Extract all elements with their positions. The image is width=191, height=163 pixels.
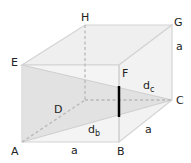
label-F: F [122, 67, 128, 80]
label-edge-gc: a [176, 40, 183, 53]
label-B: B [117, 145, 125, 158]
label-A: A [11, 145, 19, 158]
label-H: H [81, 11, 89, 24]
label-E: E [11, 56, 18, 69]
label-D: D [54, 103, 62, 116]
label-edge-ab: a [71, 144, 78, 157]
label-edge-bc: a [145, 123, 152, 136]
cube-diagram: H G E F C D A B a a a dc db [0, 0, 191, 163]
label-G: G [174, 16, 183, 29]
label-C: C [176, 94, 184, 107]
